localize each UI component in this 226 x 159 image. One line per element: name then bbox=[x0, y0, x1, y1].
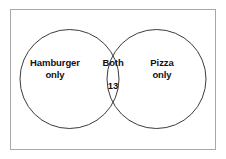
venn-diagram-canvas: Hamburger only Both 13 Pizza only bbox=[0, 0, 226, 159]
venn-value-both: 13 bbox=[93, 80, 133, 92]
venn-label-hamburger-only: Hamburger only bbox=[15, 57, 95, 80]
venn-label-both: Both bbox=[93, 57, 133, 69]
venn-label-pizza-only: Pizza only bbox=[132, 57, 192, 80]
